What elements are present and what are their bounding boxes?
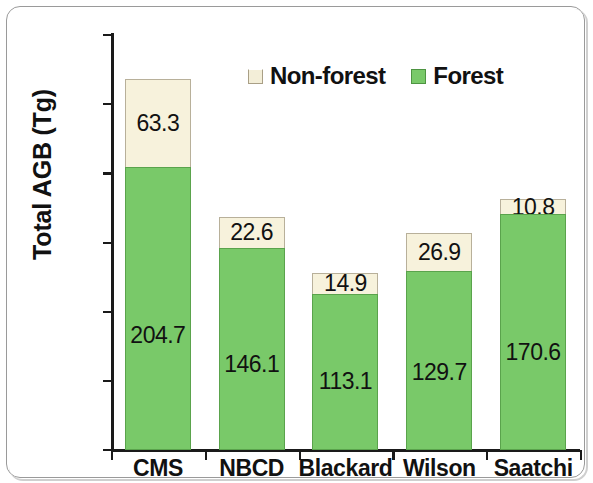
x-axis-category-label: CMS <box>111 455 205 483</box>
stacked-bar[interactable]: 26.9129.7 <box>406 233 472 450</box>
figure-container: Total AGB (Tg) 050100150200250300 63.320… <box>0 0 593 483</box>
bar-value-label-nonforest: 26.9 <box>418 241 461 264</box>
forest-swatch-icon <box>411 69 426 84</box>
bar-segment-forest[interactable]: 170.6 <box>500 214 566 450</box>
legend-item[interactable]: Forest <box>411 62 503 90</box>
bar-slot: 26.9129.7 <box>392 35 486 450</box>
bar-value-label-nonforest: 14.9 <box>324 272 367 295</box>
nonforest-swatch-icon <box>248 69 263 84</box>
bar-value-label-forest: 204.7 <box>130 324 185 347</box>
x-axis-category-label: Blackard <box>299 455 393 483</box>
bar-slot: 14.9113.1 <box>299 35 393 450</box>
x-axis-category-label: Saatchi <box>486 455 580 483</box>
bar-segment-forest[interactable]: 146.1 <box>219 248 285 450</box>
bar-value-label-forest: 129.7 <box>412 361 467 384</box>
bar-slot: 22.6146.1 <box>205 35 299 450</box>
x-axis-labels: CMSNBCDBlackardWilsonSaatchi <box>111 455 580 483</box>
y-axis-title: Total AGB (Tg) <box>28 55 57 295</box>
bar-value-label-forest: 146.1 <box>224 353 279 376</box>
bar-slot: 63.3204.7 <box>111 35 205 450</box>
legend-label: Non-forest <box>270 62 385 90</box>
chart-legend: Non-forestForest <box>248 62 503 90</box>
bar-value-label-nonforest: 22.6 <box>230 221 273 244</box>
bar-series-group: 63.3204.722.6146.114.9113.126.9129.710.8… <box>111 35 580 450</box>
bar-segment-forest[interactable]: 129.7 <box>406 271 472 450</box>
x-axis-category-label: NBCD <box>205 455 299 483</box>
bar-value-label-forest: 113.1 <box>319 370 372 393</box>
bar-segment-nonforest[interactable]: 26.9 <box>406 233 472 270</box>
x-tick-mark <box>580 450 582 460</box>
bar-slot: 10.8170.6 <box>486 35 580 450</box>
bar-segment-forest[interactable]: 113.1 <box>312 294 378 450</box>
x-axis-category-label: Wilson <box>393 455 487 483</box>
legend-item[interactable]: Non-forest <box>248 62 385 90</box>
bar-segment-nonforest[interactable]: 14.9 <box>312 273 378 294</box>
bar-segment-nonforest[interactable]: 63.3 <box>125 79 191 167</box>
stacked-bar[interactable]: 14.9113.1 <box>312 273 378 450</box>
bar-segment-nonforest[interactable]: 10.8 <box>500 199 566 214</box>
stacked-bar[interactable]: 22.6146.1 <box>219 217 285 450</box>
bar-segment-nonforest[interactable]: 22.6 <box>219 217 285 248</box>
stacked-bar[interactable]: 63.3204.7 <box>125 79 191 450</box>
stacked-bar[interactable]: 10.8170.6 <box>500 199 566 450</box>
bar-segment-forest[interactable]: 204.7 <box>125 167 191 450</box>
bar-value-label-forest: 170.6 <box>506 341 561 364</box>
legend-label: Forest <box>433 62 503 90</box>
bar-value-label-nonforest: 63.3 <box>137 112 180 135</box>
